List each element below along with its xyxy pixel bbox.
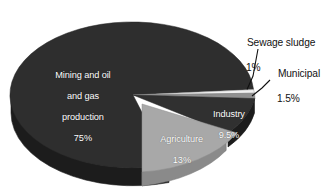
slice-label-industry-name: Industry [213,109,245,119]
callout-label-municipal-value: 1.5% [267,93,330,105]
callout-label-sewage-sludge-name: Sewage sludge [247,37,315,48]
slice-label-agriculture-name: Agriculture [160,134,203,144]
slice-label-agriculture: Agriculture 13% [136,124,218,176]
slice-label-industry-value: 9.5% [219,130,240,140]
slice-label-mining-line1: Mining and oil [55,70,110,80]
slice-label-mining-value: 75% [74,133,92,143]
callout-label-municipal-name: Municipal [278,68,320,79]
slice-label-mining: Mining and oil and gas production 75% [26,60,130,154]
slice-label-mining-line3: production [62,112,104,122]
pie-chart: Mining and oil and gas production 75% In… [0,0,330,190]
callout-label-municipal: Municipal 1.5% [267,56,330,129]
slice-label-mining-line2: and gas [67,91,99,101]
slice-label-agriculture-value: 13% [173,155,191,165]
